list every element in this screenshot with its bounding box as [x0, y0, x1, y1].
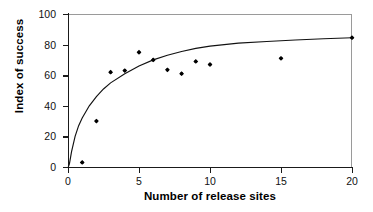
data-point-core — [152, 58, 155, 61]
data-point-core — [180, 72, 183, 75]
figure-container: 100 80 60 40 20 0 0 5 10 15 20 Index of … — [0, 0, 373, 212]
data-point-core — [350, 36, 353, 39]
data-point-core — [123, 69, 126, 72]
fit-curve — [68, 38, 352, 167]
data-point-core — [194, 60, 197, 63]
data-point-core — [95, 120, 98, 123]
data-layer — [0, 0, 373, 212]
data-point-group — [80, 35, 355, 164]
data-point-core — [137, 51, 140, 54]
data-point-core — [109, 71, 112, 74]
data-point-core — [166, 68, 169, 71]
data-point-core — [279, 57, 282, 60]
data-point-core — [81, 161, 84, 164]
data-point-core — [208, 63, 211, 66]
